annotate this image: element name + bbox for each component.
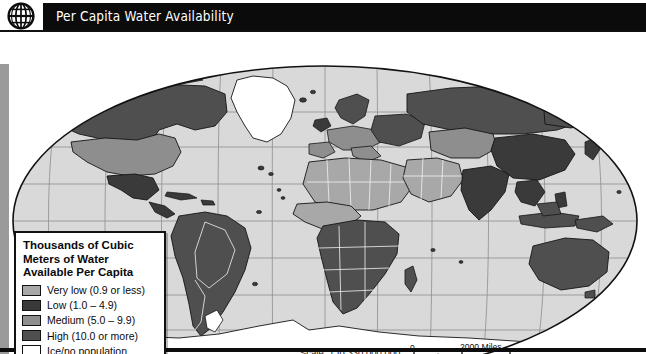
- legend-label-low: Low (1.0 – 4.9): [47, 299, 117, 311]
- legend-item-high[interactable]: High (10.0 or more): [16, 328, 164, 343]
- map-page: Per Capita Water Availability: [0, 0, 646, 354]
- legend-label-medium: Medium (5.0 – 9.9): [47, 314, 135, 326]
- scale-bars: 0 2000 Miles 0 2000 Kilometers: [412, 342, 542, 354]
- legend-swatch-medium: [22, 315, 41, 326]
- country-alaska: [21, 104, 55, 126]
- legend-title: Thousands of Cubic Meters of Water Avail…: [16, 233, 164, 283]
- map-scale: Scale: 1 to 330,000,000 0 2000 Miles 0 2…: [300, 342, 550, 354]
- legend-swatch-very-low: [22, 285, 41, 296]
- island-arctic-1: [105, 76, 145, 90]
- island-hispaniola: [201, 200, 215, 205]
- country-russia-east: [543, 94, 599, 128]
- legend-item-low[interactable]: Low (1.0 – 4.9): [16, 298, 164, 313]
- left-margin-strip: [0, 64, 9, 354]
- legend-swatch-ice: [22, 345, 41, 354]
- legend-item-medium[interactable]: Medium (5.0 – 9.9): [16, 313, 164, 328]
- legend-item-very-low[interactable]: Very low (0.9 or less): [16, 283, 164, 298]
- legend-title-line-2: Meters of Water: [23, 253, 164, 267]
- scale-ratio-text: Scale: 1 to 330,000,000: [300, 347, 400, 354]
- legend-title-line-3: Available Per Capita: [23, 266, 164, 280]
- legend-label-high: High (10.0 or more): [47, 330, 138, 342]
- header-bar: Per Capita Water Availability: [0, 0, 646, 30]
- legend-item-ice[interactable]: Ice/no population: [16, 343, 164, 354]
- legend-label-ice: Ice/no population: [47, 345, 127, 354]
- globe-grid-icon: [4, 2, 38, 30]
- page-title: Per Capita Water Availability: [56, 8, 234, 24]
- legend-title-line-1: Thousands of Cubic: [23, 239, 164, 253]
- legend-swatch-low: [22, 300, 41, 311]
- legend-label-very-low: Very low (0.9 or less): [47, 284, 145, 296]
- region-central-asia: [429, 128, 497, 158]
- legend-swatch-high: [22, 330, 41, 341]
- map-legend[interactable]: Thousands of Cubic Meters of Water Avail…: [14, 231, 166, 354]
- right-margin-strip: [642, 64, 646, 354]
- country-new-zealand: [617, 280, 633, 302]
- map-frame: Thousands of Cubic Meters of Water Avail…: [0, 30, 646, 352]
